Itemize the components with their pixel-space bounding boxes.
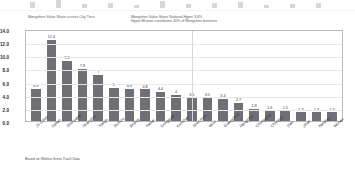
ghost-bar (108, 3, 113, 8)
ghost-bar (264, 5, 269, 8)
y-axis-tick-label: 2.0 (0, 108, 9, 113)
x-axis-label-cell: Wuxi (200, 123, 216, 157)
bar (109, 88, 119, 121)
x-axis-label-cell: Jinan (294, 123, 310, 157)
y-axis-tick-label: 8.0 (0, 68, 9, 73)
x-axis-label-cell: Shenyang (58, 123, 74, 157)
ghost-bar (160, 1, 165, 8)
ghost-bar (238, 2, 243, 8)
x-axis-label-cell: Beijing (121, 123, 137, 157)
partial-chart-above (0, 0, 355, 11)
bar-value-label: 4 (175, 90, 177, 94)
ghost-bar (82, 4, 87, 8)
bar-value-label: 1.9 (252, 104, 257, 108)
bar (93, 75, 103, 121)
ghost-bar (316, 3, 321, 8)
x-axis-label-cell: Xian (278, 123, 294, 157)
ghost-baseline (0, 10, 355, 11)
bar-value-label: 12.4 (48, 35, 55, 39)
y-axis-tick-label: 0.0 (0, 121, 9, 126)
ghost-bar (212, 3, 217, 8)
slide-canvas: Mongshen Value Share across City Tiers M… (0, 0, 355, 192)
ghost-bar (30, 2, 35, 8)
grid-line (26, 84, 342, 85)
ghost-bar (134, 5, 139, 8)
x-axis-label-cell: Wuhan (325, 123, 341, 157)
plot-area: 4.912.49.27.9754.94.84.443.53.53.42.71.9… (25, 30, 343, 122)
x-axis-label-cell: Chongqing (247, 123, 263, 157)
x-axis-label-cell: Kunshan (168, 123, 184, 157)
grid-line (26, 57, 342, 58)
x-axis-label-cell: 15 Cities (27, 123, 43, 157)
bar-value-label: 7.9 (80, 64, 85, 68)
y-axis-tick-label: 10.0 (0, 55, 9, 60)
x-axis-label-cell: Shenzhen (184, 123, 200, 157)
bar-value-label: 4.9 (127, 84, 132, 88)
bar-value-label: 2.7 (236, 98, 241, 102)
y-axis-tick-label: 14.0 (0, 29, 9, 34)
bar (296, 112, 306, 121)
grid-line (26, 110, 342, 111)
x-axis-label-cell: Guangzhou (215, 123, 231, 157)
y-axis-tick-label: 6.0 (0, 81, 9, 86)
x-axis-label-cell: Tianjin (90, 123, 106, 157)
bar (31, 89, 41, 121)
annotation-line-2: Hyper Mianan contributes 40% of Mongshen… (131, 19, 217, 24)
grid-line (26, 70, 342, 71)
bar-value-label: 4.8 (142, 85, 147, 89)
x-axis-label-cell: Dalian (43, 123, 59, 157)
chart-subtitle-left: Mongshen Value Share across City Tiers (28, 15, 95, 19)
bar (47, 40, 57, 121)
source-note: Based on Wofeia Gross Track Data (25, 157, 80, 161)
grid-line (26, 44, 342, 45)
bar-value-label: 4.9 (33, 84, 38, 88)
chart-annotation: Mongshen Value Share National Hyper 3.8%… (131, 15, 217, 24)
bar (140, 89, 150, 121)
y-axis-tick-label: 4.0 (0, 95, 9, 100)
ghost-bar (290, 4, 295, 8)
x-axis-label-cell: Dongguan (153, 123, 169, 157)
bar-value-label: 4.4 (158, 87, 163, 91)
x-axis-label-cell: Yantai (137, 123, 153, 157)
y-axis-tick-label: 12.0 (0, 42, 9, 47)
ghost-bar (56, 0, 61, 8)
bar (312, 112, 322, 121)
x-axis-label-cell: Chengdu (263, 123, 279, 157)
x-axis-label-cell: Suzhou (106, 123, 122, 157)
x-axis-label-cell: Shanghai (74, 123, 90, 157)
bar (125, 89, 135, 121)
x-axis-labels: 15 CitiesDalianShenyangShanghaiTianjinSu… (25, 123, 343, 157)
x-axis-label-cell: Nanjing (310, 123, 326, 157)
ghost-bar (186, 4, 191, 8)
tier-divider-line (192, 31, 193, 121)
x-axis-label-cell: Hangzhou (231, 123, 247, 157)
grid-line (26, 97, 342, 98)
